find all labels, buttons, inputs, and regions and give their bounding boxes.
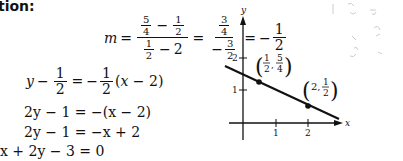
y-axis-label: y (240, 5, 247, 15)
x-axis-label: x (345, 118, 350, 128)
equation-line-2: 2y − 1 = −(x − 2) (24, 104, 151, 120)
svg-text:1: 1 (273, 128, 279, 138)
svg-text:2: 2 (305, 128, 311, 138)
equation-line-3: 2y − 1 = −x + 2 (24, 124, 140, 140)
faint-handwriting (330, 0, 403, 80)
slope-symbol: m (104, 30, 117, 46)
svg-text:,: , (271, 60, 274, 70)
svg-text:(: ( (255, 54, 264, 79)
svg-text:2: 2 (264, 64, 270, 74)
svg-text:): ) (330, 78, 339, 103)
point-1-label: ( 1 2 , 5 4 ) (255, 53, 293, 79)
svg-text:5: 5 (277, 53, 283, 63)
svg-text:1: 1 (264, 53, 270, 63)
svg-text:1: 1 (232, 85, 238, 95)
equation-line-4: x + 2y − 3 = 0 (0, 143, 104, 159)
section-heading: tion: (0, 0, 35, 14)
point-slope-equation: y− 12 =− 12 (x − 2) (26, 66, 163, 96)
svg-text:2,: 2, (311, 81, 321, 92)
point-2 (305, 103, 311, 109)
svg-text:(: ( (302, 78, 311, 103)
svg-text:2: 2 (323, 88, 329, 98)
svg-text:2: 2 (232, 53, 238, 63)
slope-fraction-1: 54 − 12 12 − 2 (137, 14, 187, 61)
x-axis-arrow-icon (334, 120, 343, 126)
point-1 (256, 79, 262, 85)
svg-text:): ) (284, 54, 293, 79)
point-2-label: ( 2, 1 2 ) (302, 77, 339, 103)
svg-text:1: 1 (323, 77, 329, 87)
svg-text:4: 4 (277, 64, 283, 74)
y-axis-arrow-icon (240, 16, 246, 25)
